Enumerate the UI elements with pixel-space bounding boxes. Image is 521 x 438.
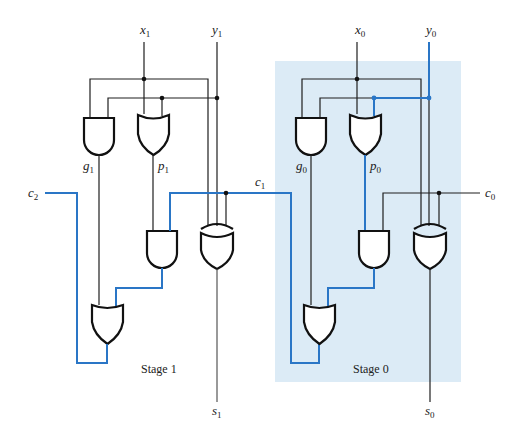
stage0-label: Stage 0 [353, 362, 389, 376]
c2-label: c2 [28, 185, 38, 202]
junction-dot [160, 96, 165, 101]
xor-gate-s1 [201, 233, 233, 269]
stage1-label: Stage 1 [141, 362, 177, 376]
or-gate-c2 [92, 305, 123, 344]
junction-dot [215, 96, 220, 101]
x0-label: x0 [354, 22, 366, 39]
stage0-highlight-region [275, 61, 461, 382]
s0-label: s0 [425, 403, 435, 420]
p1-label: p1 [157, 158, 169, 175]
c2-wire [45, 193, 107, 363]
and-gate-p0-c0 [359, 231, 389, 268]
or-gate-p1 [138, 115, 169, 155]
junction-dot [142, 77, 147, 82]
and-gate-g0 [296, 118, 326, 155]
junction-dot [427, 96, 432, 101]
and-gate-g1 [84, 118, 114, 155]
circuit-diagram: x1 y1 g1 p1 c2 [0, 0, 521, 438]
y1-label: y1 [210, 22, 222, 39]
g1-label: g1 [83, 158, 94, 175]
c0-label: c0 [485, 185, 496, 202]
y0-label: y0 [424, 22, 437, 39]
junction-dot [437, 191, 442, 196]
junction-dot [355, 77, 360, 82]
junction-dot [372, 96, 377, 101]
x1-label: x1 [139, 22, 150, 39]
c1-label: c1 [255, 174, 265, 191]
and-output-wire [116, 268, 162, 306]
s1-label: s1 [212, 403, 222, 420]
xor-extra-arc [201, 224, 233, 229]
stage-1: x1 y1 g1 p1 c2 [28, 22, 233, 420]
junction-dot [224, 191, 229, 196]
and-gate-p1-c1 [147, 231, 177, 268]
